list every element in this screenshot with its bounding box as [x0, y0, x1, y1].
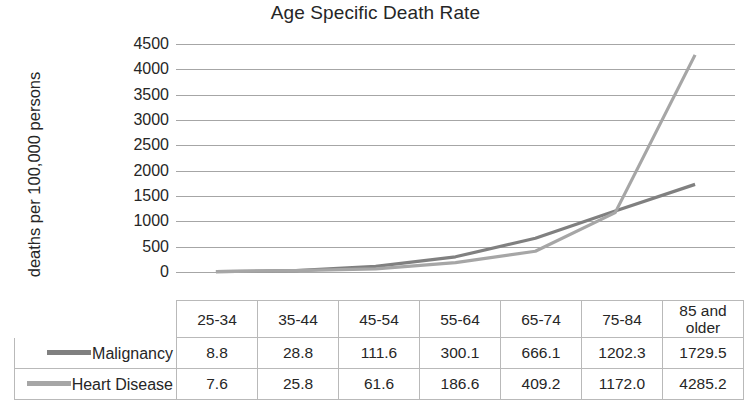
table-column-header: 85 and older — [663, 301, 744, 338]
table-cell-value: 4285.2 — [663, 369, 744, 400]
table-cell-value: 186.6 — [420, 369, 501, 400]
y-axis-tick-label: 4500 — [109, 36, 169, 52]
table-row: Heart Disease7.625.861.6186.6409.21172.0… — [15, 369, 744, 400]
y-axis-title: deaths per 100,000 persons — [25, 35, 44, 315]
table-row: Malignancy8.828.8111.6300.1666.11202.317… — [15, 338, 744, 369]
y-axis-tick-label: 2000 — [109, 163, 169, 179]
y-axis-tick-label: 500 — [109, 239, 169, 255]
legend-entry: Malignancy — [15, 338, 177, 369]
table-cell-value: 1729.5 — [663, 338, 744, 369]
table-cell-value: 111.6 — [339, 338, 420, 369]
y-axis-tick-labels: 450040003500300025002000150010005000 — [107, 44, 169, 272]
series-line-heart-disease — [216, 55, 695, 272]
y-axis-tick-label: 3000 — [109, 112, 169, 128]
table-body: Malignancy8.828.8111.6300.1666.11202.317… — [15, 338, 744, 400]
legend-swatch-icon — [27, 381, 71, 386]
y-axis-tick-label: 4000 — [109, 61, 169, 77]
legend-header-cell — [15, 301, 177, 338]
table-cell-value: 8.8 — [177, 338, 258, 369]
y-axis-tick-label: 1000 — [109, 213, 169, 229]
table-column-header: 75-84 — [582, 301, 663, 338]
table-column-header: 25-34 — [177, 301, 258, 338]
page-title: Age Specific Death Rate — [0, 2, 751, 24]
y-axis-tick-label: 1500 — [109, 188, 169, 204]
table-header: 25-3435-4445-5455-6465-7475-8485 and old… — [15, 301, 744, 338]
table-column-header: 45-54 — [339, 301, 420, 338]
table-column-header: 65-74 — [501, 301, 582, 338]
y-axis-tick-label: 3500 — [109, 87, 169, 103]
legend-entry: Heart Disease — [15, 369, 177, 400]
table-cell-value: 61.6 — [339, 369, 420, 400]
legend-label: Heart Disease — [72, 375, 173, 392]
table-cell-value: 300.1 — [420, 338, 501, 369]
table-cell-value: 409.2 — [501, 369, 582, 400]
table-cell-value: 7.6 — [177, 369, 258, 400]
table-cell-value: 28.8 — [258, 338, 339, 369]
chart-figure: Age Specific Death Rate deaths per 100,0… — [0, 0, 751, 413]
table-cell-value: 666.1 — [501, 338, 582, 369]
plot-area — [176, 44, 735, 272]
table-column-header: 55-64 — [420, 301, 501, 338]
legend-label: Malignancy — [92, 344, 173, 361]
legend-swatch-icon — [47, 350, 91, 355]
table-cell-value: 1202.3 — [582, 338, 663, 369]
y-axis-tick-label: 2500 — [109, 137, 169, 153]
series-lines — [176, 44, 735, 272]
data-table: 25-3435-4445-5455-6465-7475-8485 and old… — [14, 300, 744, 400]
table-cell-value: 25.8 — [258, 369, 339, 400]
table-header-row: 25-3435-4445-5455-6465-7475-8485 and old… — [15, 301, 744, 338]
table-cell-value: 1172.0 — [582, 369, 663, 400]
table-column-header: 35-44 — [258, 301, 339, 338]
y-axis-tick-label: 0 — [109, 264, 169, 280]
